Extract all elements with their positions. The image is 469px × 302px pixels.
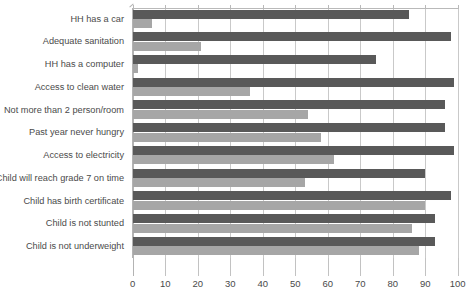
category-label-9: Child is not stunted	[46, 218, 124, 228]
x-tick-20	[198, 258, 199, 276]
x-tick-90	[425, 258, 426, 276]
bar-dark-4	[133, 100, 445, 109]
category-label-6: Access to electricity	[43, 150, 124, 160]
category-label-0: HH has a car	[70, 14, 124, 24]
bar-dark-2	[133, 55, 377, 64]
category-label-4: Not more than 2 person/room	[4, 105, 124, 115]
x-tick-40	[263, 258, 264, 276]
bar-light-4	[133, 110, 309, 119]
x-tick-50	[295, 258, 296, 276]
bar-light-3	[133, 87, 250, 96]
x-tick-label-80: 80	[387, 278, 398, 289]
bar-dark-0	[133, 10, 409, 19]
value-axis: 0102030405060708090100	[133, 258, 458, 302]
bar-dark-7	[133, 169, 426, 178]
x-tick-100	[458, 258, 459, 276]
x-tick-label-60: 60	[322, 278, 333, 289]
bar-light-6	[133, 155, 335, 164]
bar-light-1	[133, 42, 201, 51]
bar-light-10	[133, 246, 419, 255]
bar-dark-10	[133, 237, 435, 246]
x-tick-label-30: 30	[225, 278, 236, 289]
bar-dark-5	[133, 123, 445, 132]
top-tick-20	[198, 5, 199, 9]
bar-light-8	[133, 201, 426, 210]
x-tick-30	[230, 258, 231, 276]
x-tick-label-10: 10	[160, 278, 171, 289]
top-tick-50	[295, 5, 296, 9]
plot-area	[133, 8, 458, 258]
category-label-8: Child has birth certificate	[23, 196, 124, 206]
bar-light-7	[133, 178, 305, 187]
x-tick-label-0: 0	[130, 278, 135, 289]
top-tick-100	[458, 5, 459, 9]
x-tick-80	[393, 258, 394, 276]
top-tick-90	[425, 5, 426, 9]
horizontal-bar-chart: HH has a carAdequate sanitationHH has a …	[0, 0, 469, 302]
top-tick-10	[165, 5, 166, 9]
bar-dark-1	[133, 32, 452, 41]
x-tick-70	[360, 258, 361, 276]
category-label-5: Past year never hungry	[29, 127, 124, 137]
x-tick-60	[328, 258, 329, 276]
value-axis-spine	[132, 8, 133, 258]
bar-dark-3	[133, 78, 455, 87]
bar-light-0	[133, 19, 153, 28]
x-tick-label-100: 100	[450, 278, 466, 289]
category-axis-labels: HH has a carAdequate sanitationHH has a …	[0, 8, 128, 258]
x-tick-label-50: 50	[290, 278, 301, 289]
category-label-2: HH has a computer	[45, 59, 124, 69]
category-label-3: Access to clean water	[35, 82, 124, 92]
bar-light-9	[133, 224, 413, 233]
bar-dark-8	[133, 191, 452, 200]
top-tick-70	[360, 5, 361, 9]
top-tick-30	[230, 5, 231, 9]
category-label-1: Adequate sanitation	[43, 36, 124, 46]
x-tick-label-40: 40	[257, 278, 268, 289]
category-label-7: Child will reach grade 7 on time	[0, 173, 124, 183]
gridline-100	[458, 8, 459, 258]
bar-dark-9	[133, 214, 435, 223]
top-tick-80	[393, 5, 394, 9]
top-tick-60	[328, 5, 329, 9]
bar-light-5	[133, 133, 322, 142]
bar-dark-6	[133, 146, 455, 155]
top-tick-40	[263, 5, 264, 9]
bar-light-2	[133, 64, 138, 73]
x-tick-label-70: 70	[355, 278, 366, 289]
x-tick-label-90: 90	[420, 278, 431, 289]
category-label-10: Child is not underweight	[26, 241, 124, 251]
x-tick-label-20: 20	[192, 278, 203, 289]
x-tick-0	[133, 258, 134, 276]
x-tick-10	[165, 258, 166, 276]
